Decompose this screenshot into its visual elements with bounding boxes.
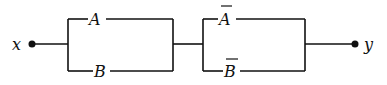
- circuit-diagram: x A B A B y: [0, 0, 387, 85]
- parallel-block-1: A B: [68, 10, 173, 81]
- parallel-block-2: A B: [203, 6, 305, 81]
- output-label: y: [363, 35, 374, 54]
- branch-label-A-bar: A: [217, 10, 231, 29]
- output-terminal-dot: [352, 41, 359, 48]
- branch-label-B: B: [93, 62, 106, 81]
- branch-label-A: A: [87, 10, 101, 29]
- input-label: x: [12, 35, 21, 54]
- branch-label-B-bar: B: [223, 62, 236, 81]
